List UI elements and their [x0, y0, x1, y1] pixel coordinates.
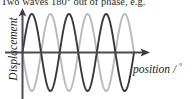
- plot-area: [0, 0, 195, 99]
- wave-phase-diagram: Two waves 180° out of phase, e.g. Displa…: [0, 0, 195, 99]
